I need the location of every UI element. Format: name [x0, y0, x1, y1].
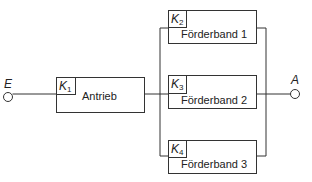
- component-tag: K1: [56, 77, 76, 95]
- component-label: Förderband 1: [181, 28, 247, 40]
- component-label: Förderband 3: [181, 158, 247, 170]
- component-foerderband-2: K3 Förderband 2: [168, 75, 257, 109]
- output-label: A: [291, 73, 299, 87]
- input-terminal: [4, 93, 13, 102]
- connection-lines: [0, 0, 312, 182]
- input-label: E: [4, 77, 12, 91]
- component-label: Antrieb: [82, 90, 117, 102]
- component-foerderband-3: K4 Förderband 3: [168, 140, 257, 174]
- component-label: Förderband 2: [181, 94, 247, 106]
- component-tag: K2: [168, 10, 187, 28]
- component-tag: K3: [168, 75, 187, 94]
- component-foerderband-1: K2 Förderband 1: [168, 10, 257, 44]
- component-tag: K4: [168, 140, 187, 158]
- component-antrieb: K1 Antrieb: [56, 77, 145, 113]
- output-terminal: [291, 90, 300, 99]
